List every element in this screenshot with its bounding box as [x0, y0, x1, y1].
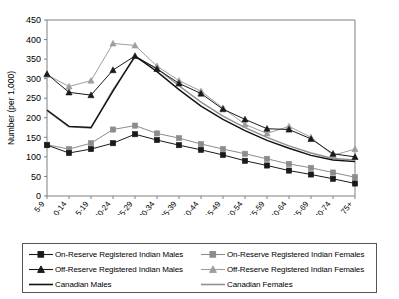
x-tick-label: 15-19	[71, 199, 91, 215]
legend-item[interactable]: Off-Reserve Registered Indian Males	[28, 264, 200, 275]
data-point-square	[308, 172, 313, 177]
data-point-square	[242, 151, 247, 156]
x-tick-label: 20-24	[93, 199, 113, 215]
legend-label: On-Reserve Registered Indian Males	[55, 250, 183, 259]
data-point-square	[330, 176, 335, 181]
legend-item[interactable]: On-Reserve Registered Indian Females	[200, 249, 372, 260]
data-point-triangle	[132, 53, 138, 59]
data-point-square	[264, 156, 269, 161]
y-tick-label: 400	[26, 35, 41, 45]
data-point-triangle	[352, 146, 358, 152]
y-tick-label: 450	[26, 15, 41, 25]
y-tick-label: 250	[26, 93, 41, 103]
data-point-square	[286, 168, 291, 173]
x-tick-label: 45-49	[203, 199, 223, 215]
legend-marker-triangle-icon	[200, 264, 226, 275]
legend-marker-none-icon	[200, 279, 226, 290]
legend-square	[210, 252, 216, 258]
x-tick-label: 5-9	[32, 199, 47, 214]
x-tick-label: 40-44	[181, 199, 201, 215]
x-tick-label: 60-64	[269, 199, 289, 215]
data-point-square	[88, 146, 93, 151]
y-tick-label: 100	[26, 152, 41, 162]
y-tick-label: 150	[26, 133, 41, 143]
data-point-triangle	[110, 67, 116, 73]
legend-marker-triangle-icon	[28, 264, 54, 275]
legend-marker-none-icon	[28, 279, 54, 290]
legend-label: Off-Reserve Registered Indian Females	[227, 265, 364, 274]
y-axis-title: Number (per 1,000)	[6, 71, 16, 145]
data-point-triangle	[88, 77, 94, 83]
data-point-square	[198, 147, 203, 152]
x-tick-label: 75+	[339, 199, 355, 215]
data-point-square	[88, 141, 93, 146]
legend-label: Canadian Females	[227, 280, 293, 289]
data-point-square	[242, 158, 247, 163]
chart-legend: On-Reserve Registered Indian MalesOn-Res…	[22, 243, 377, 293]
legend-item[interactable]: Canadian Males	[28, 279, 200, 290]
data-point-square	[220, 146, 225, 151]
chart-screenshot: 050100150200250300350400450Number (per 1…	[0, 0, 399, 299]
legend-label: On-Reserve Registered Indian Females	[227, 250, 364, 259]
data-point-square	[176, 136, 181, 141]
data-point-square	[220, 152, 225, 157]
legend-label: Canadian Males	[55, 280, 111, 289]
chart-plot-area: 050100150200250300350400450Number (per 1…	[0, 0, 399, 215]
data-point-square	[198, 141, 203, 146]
data-point-square	[264, 163, 269, 168]
data-point-square	[110, 127, 115, 132]
x-tick-label: 35-39	[159, 199, 179, 215]
x-tick-label: 30-34	[137, 199, 157, 215]
data-point-square	[132, 123, 137, 128]
y-tick-label: 350	[26, 54, 41, 64]
x-tick-label: 65-69	[291, 199, 311, 215]
legend-item[interactable]: On-Reserve Registered Indian Males	[28, 249, 200, 260]
x-tick-label: 25-29	[115, 199, 135, 215]
data-point-square	[154, 131, 159, 136]
data-point-square	[154, 137, 159, 142]
data-point-triangle	[242, 116, 248, 122]
data-point-square	[176, 143, 181, 148]
legend-marker-square-icon	[200, 249, 226, 260]
data-point-square	[352, 175, 357, 180]
y-tick-label: 300	[26, 74, 41, 84]
data-point-square	[308, 165, 313, 170]
data-point-square	[352, 181, 357, 186]
legend-item[interactable]: Off-Reserve Registered Indian Females	[200, 264, 372, 275]
data-point-triangle	[44, 71, 50, 77]
x-tick-label: 55-59	[247, 199, 267, 215]
x-tick-label: 50-54	[225, 199, 245, 215]
data-point-square	[110, 141, 115, 146]
line-chart: 050100150200250300350400450Number (per 1…	[0, 0, 399, 215]
legend-marker-square-icon	[28, 249, 54, 260]
data-point-square	[330, 170, 335, 175]
x-tick-label: 70-74	[313, 199, 333, 215]
legend-item[interactable]: Canadian Females	[200, 279, 372, 290]
data-point-square	[286, 161, 291, 166]
data-point-square	[44, 143, 49, 148]
y-tick-label: 50	[31, 172, 41, 182]
legend-label: Off-Reserve Registered Indian Males	[55, 265, 183, 274]
data-point-square	[132, 132, 137, 137]
legend-square	[38, 252, 44, 258]
data-point-square	[66, 150, 71, 155]
x-tick-label: 10-14	[49, 199, 69, 215]
y-tick-label: 200	[26, 113, 41, 123]
